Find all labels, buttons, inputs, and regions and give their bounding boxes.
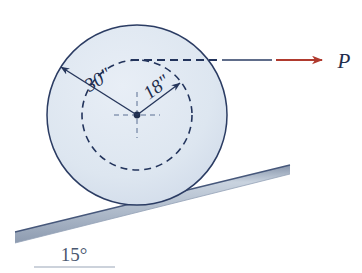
- mechanics-diagram: 30" 18" P 15°: [0, 0, 362, 273]
- force-label-p: P: [337, 49, 351, 73]
- incline-angle-annotation: 15°: [34, 244, 115, 267]
- figure-canvas: 30" 18" P 15°: [0, 0, 362, 273]
- incline-angle-label: 15°: [61, 244, 88, 265]
